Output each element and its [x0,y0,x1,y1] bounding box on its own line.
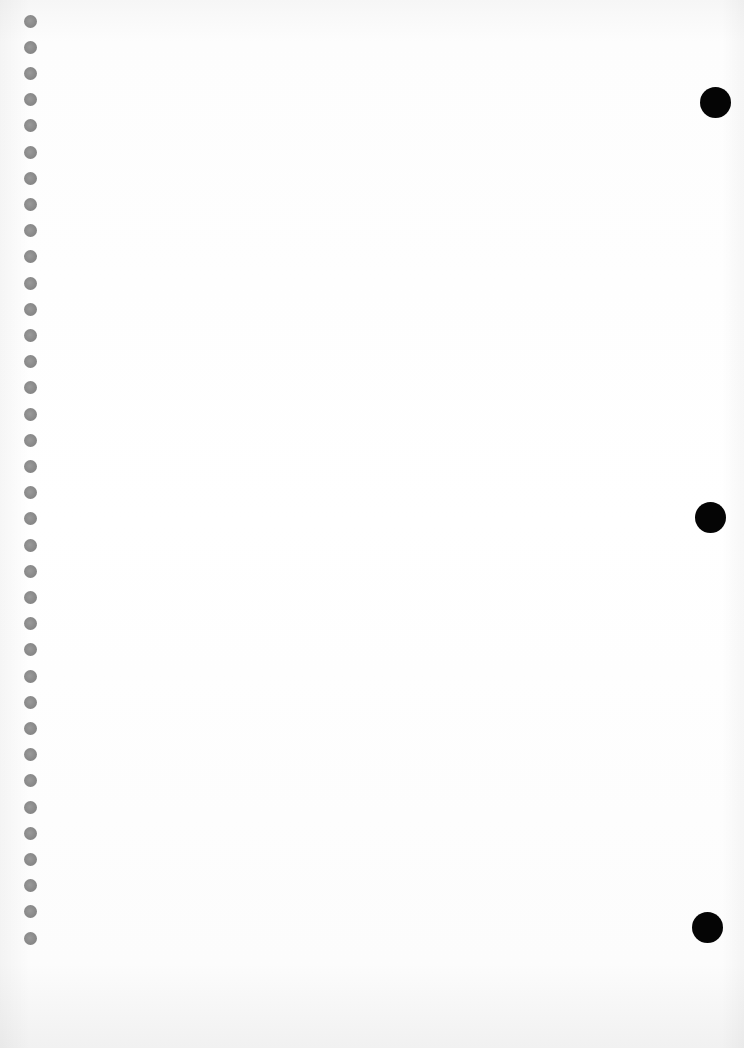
binder-hole-small [24,198,37,211]
binder-hole-small [24,329,37,342]
binder-hole-small [24,172,37,185]
binder-hole-small [24,67,37,80]
binder-hole-small [24,277,37,290]
notebook-paper [0,0,744,1048]
binder-hole-small [24,460,37,473]
binder-hole-small [24,486,37,499]
binder-hole-large [700,87,731,118]
binder-hole-small [24,643,37,656]
binder-hole-small [24,591,37,604]
binder-hole-small [24,905,37,918]
binder-hole-small [24,932,37,945]
binder-hole-small [24,41,37,54]
binder-hole-small [24,801,37,814]
binder-hole-small [24,303,37,316]
binder-hole-large [692,912,723,943]
binder-hole-small [24,512,37,525]
binder-hole-small [24,696,37,709]
binder-hole-small [24,250,37,263]
binder-hole-small [24,224,37,237]
binder-hole-small [24,15,37,28]
binder-hole-small [24,355,37,368]
binder-hole-small [24,119,37,132]
binder-hole-small [24,879,37,892]
binder-hole-small [24,722,37,735]
binder-hole-small [24,565,37,578]
binder-hole-small [24,408,37,421]
binder-hole-small [24,539,37,552]
binder-hole-small [24,853,37,866]
binder-hole-small [24,434,37,447]
binder-hole-small [24,93,37,106]
binder-hole-small [24,670,37,683]
binder-hole-small [24,381,37,394]
binder-hole-large [695,502,726,533]
binder-hole-small [24,827,37,840]
binder-hole-small [24,617,37,630]
binder-hole-small [24,146,37,159]
binder-hole-small [24,774,37,787]
binder-hole-small [24,748,37,761]
